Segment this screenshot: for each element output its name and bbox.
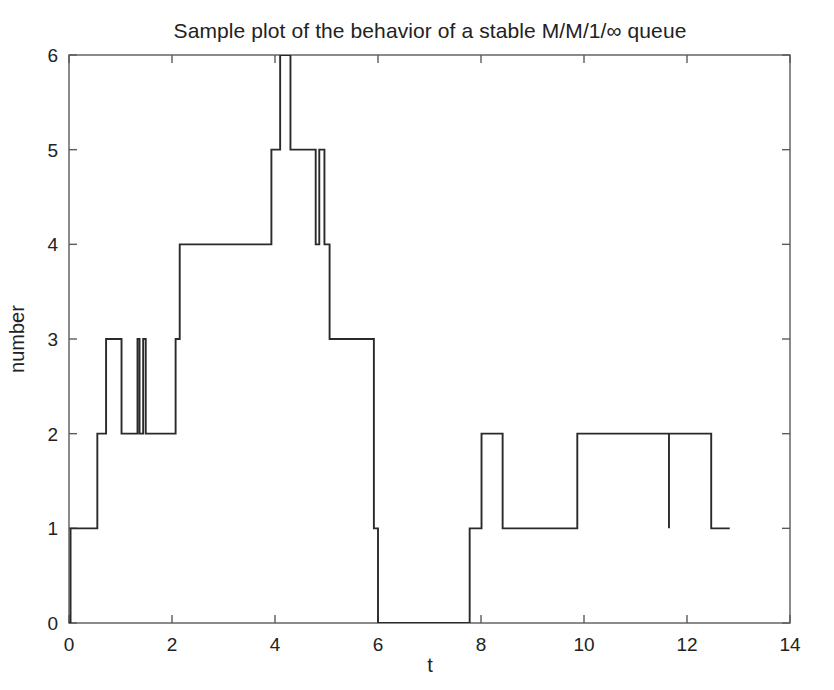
figure-background	[0, 0, 834, 690]
y-tick-label: 0	[47, 613, 58, 634]
y-tick-label: 3	[47, 329, 58, 350]
queue-sample-path-chart: Sample plot of the behavior of a stable …	[0, 0, 834, 690]
x-tick-label: 6	[373, 634, 384, 655]
x-tick-label: 10	[573, 634, 594, 655]
y-tick-label: 5	[47, 140, 58, 161]
x-tick-label: 4	[270, 634, 281, 655]
y-tick-label: 1	[47, 518, 58, 539]
y-tick-label: 2	[47, 424, 58, 445]
x-tick-label: 2	[167, 634, 178, 655]
y-tick-label: 4	[47, 234, 58, 255]
x-axis-label: t	[427, 654, 433, 676]
x-tick-label: 14	[779, 634, 801, 655]
x-tick-label: 8	[476, 634, 487, 655]
x-tick-label: 12	[676, 634, 697, 655]
y-axis-label: number	[6, 305, 28, 373]
x-tick-label: 0	[64, 634, 75, 655]
chart-title: Sample plot of the behavior of a stable …	[174, 19, 687, 42]
figure-container: Sample plot of the behavior of a stable …	[0, 0, 834, 690]
y-tick-label: 6	[47, 45, 58, 66]
